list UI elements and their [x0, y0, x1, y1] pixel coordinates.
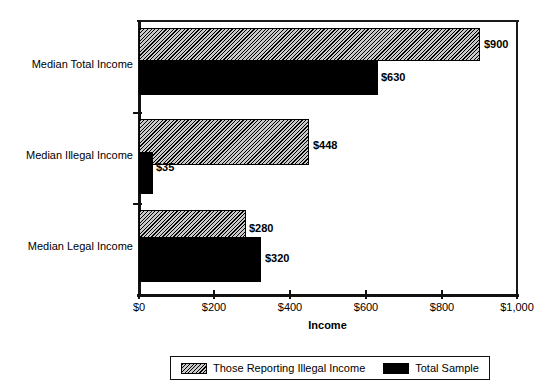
x-axis-tick-400 — [289, 290, 291, 299]
x-axis-line — [137, 294, 519, 297]
x-axis-tick-label-400: $400 — [278, 301, 302, 313]
plot-frame-right — [516, 20, 518, 297]
x-axis-tick-800 — [441, 290, 443, 299]
bar-total-income-total-sample — [139, 61, 378, 95]
bar-illegal-income-total-sample — [139, 152, 153, 194]
y-axis-label-median-legal-income: Median Legal Income — [28, 240, 133, 252]
legend-entry-those-reporting-illegal-income: Those Reporting Illegal Income — [181, 362, 365, 374]
x-axis-tick-label-0: $0 — [133, 301, 145, 313]
bar-illegal-income-illegal-reporters — [139, 119, 309, 165]
x-axis-tick-1000 — [516, 290, 518, 299]
x-axis-tick-200 — [213, 290, 215, 299]
bar-total-income-illegal-reporters — [139, 28, 480, 61]
hatched-swatch-icon — [181, 363, 207, 374]
bar-value-label-900: $900 — [484, 38, 508, 50]
bar-chart: Median Total Income Median Illegal Incom… — [0, 0, 546, 390]
x-axis-tick-label-600: $600 — [354, 301, 378, 313]
y-axis-label-median-total-income: Median Total Income — [32, 58, 133, 70]
legend: Those Reporting Illegal Income Total Sam… — [170, 356, 490, 380]
bar-value-label-320: $320 — [265, 252, 289, 264]
y-axis-tick-1 — [133, 112, 142, 114]
legend-label-those-reporting-illegal-income: Those Reporting Illegal Income — [213, 362, 365, 374]
black-swatch-icon — [383, 363, 409, 374]
legend-label-total-sample: Total Sample — [415, 362, 479, 374]
bar-value-label-35: $35 — [156, 161, 174, 173]
x-axis-tick-0 — [138, 290, 140, 299]
legend-entry-total-sample: Total Sample — [383, 362, 479, 374]
x-axis-tick-label-1000: $1,000 — [500, 301, 534, 313]
x-axis-tick-label-800: $800 — [430, 301, 454, 313]
x-axis-tick-label-200: $200 — [202, 301, 226, 313]
x-axis-tick-600 — [365, 290, 367, 299]
bar-value-label-448: $448 — [313, 139, 337, 151]
bar-legal-income-total-sample — [139, 237, 261, 282]
y-axis-label-median-illegal-income: Median Illegal Income — [26, 149, 133, 161]
y-axis-category-labels: Median Total Income Median Illegal Incom… — [0, 22, 133, 294]
bar-value-label-280: $280 — [249, 222, 273, 234]
x-axis-title: Income — [138, 319, 517, 331]
y-axis-tick-2 — [133, 203, 142, 205]
bar-value-label-630: $630 — [381, 71, 405, 83]
plot-frame-top — [137, 20, 519, 22]
